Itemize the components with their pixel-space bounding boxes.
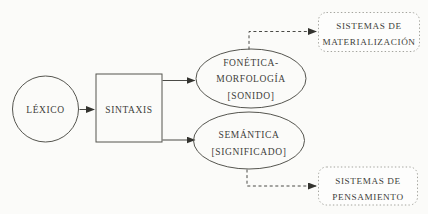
materializacion-label-line2: MATERIALIZACIÓN bbox=[322, 37, 415, 47]
fonetica-label-line2: MORFOLOGÍA bbox=[216, 73, 285, 84]
dashed-connector-fonetica-to-materializacion bbox=[249, 32, 316, 50]
semantica-ellipse-node bbox=[194, 112, 305, 169]
pensamiento-label-line1: SISTEMAS DE bbox=[335, 176, 401, 186]
diagram-canvas: LÉXICO SINTAXIS FONÉTICA- MORFOLOGÍA [SO… bbox=[0, 0, 428, 214]
sintaxis-label: SINTAXIS bbox=[105, 105, 152, 115]
semantica-label-line1: SEMÁNTICA bbox=[219, 129, 280, 140]
materializacion-label-line1: SISTEMAS DE bbox=[336, 21, 402, 31]
dashed-connector-semantica-to-pensamiento bbox=[247, 170, 316, 187]
fonetica-label-line3: [SONIDO] bbox=[227, 91, 274, 101]
semantica-label-line2: [SIGNIFICADO] bbox=[212, 147, 287, 157]
pensamiento-label-line2: PENSAMIENTO bbox=[332, 192, 403, 202]
lexico-label: LÉXICO bbox=[26, 104, 64, 115]
fonetica-label-line1: FONÉTICA- bbox=[223, 57, 279, 68]
linguistics-flow-diagram: LÉXICO SINTAXIS FONÉTICA- MORFOLOGÍA [SO… bbox=[0, 0, 428, 214]
